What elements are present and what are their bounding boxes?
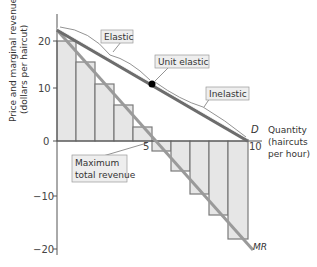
max-revenue-label-1: Maximum xyxy=(75,158,119,168)
unit-elastic-point xyxy=(149,81,156,88)
chart: Elastic Unit elastic Inelastic Maximum t… xyxy=(0,0,317,267)
max-revenue-leader xyxy=(103,143,147,156)
max-revenue-label-2: total revenue xyxy=(75,170,136,180)
x-title-3: per hour) xyxy=(268,149,310,159)
y-title-2: (dollars per haircut) xyxy=(19,25,29,114)
x-title-1: Quantity xyxy=(268,125,308,135)
y-tick-neg10: −10 xyxy=(33,191,54,202)
elastic-label: Elastic xyxy=(104,32,133,42)
x-title-2: (haircuts xyxy=(268,137,308,147)
y-tick-neg20: −20 xyxy=(33,244,54,255)
x-tick-5: 5 xyxy=(143,141,149,152)
y-tick-10: 10 xyxy=(38,83,51,94)
elastic-leader xyxy=(113,42,121,52)
y-tick-0: 0 xyxy=(43,136,49,147)
bar-1 xyxy=(57,41,76,141)
y-title-1: Price and marginal revenue xyxy=(8,0,18,122)
bar-2 xyxy=(76,62,95,141)
inelastic-label: Inelastic xyxy=(209,89,247,99)
mr-label: MR xyxy=(253,242,267,252)
x-tick-10: 10 xyxy=(249,141,262,152)
demand-label: D xyxy=(251,124,259,135)
y-tick-20: 20 xyxy=(38,36,51,47)
bar-8 xyxy=(190,141,209,194)
mr-bars xyxy=(57,41,248,239)
y-title: Price and marginal revenue (dollars per … xyxy=(8,0,29,122)
unit-elastic-label: Unit elastic xyxy=(158,57,208,67)
